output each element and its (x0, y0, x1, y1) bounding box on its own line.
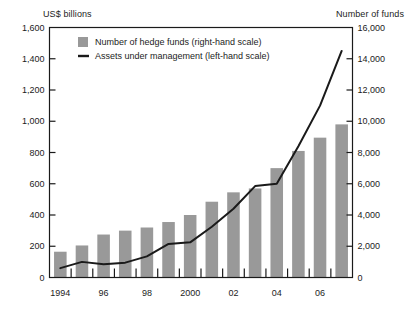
bar-2003 (249, 188, 262, 277)
left-tick-label-0: 0 (0, 273, 45, 282)
bars-group (54, 124, 348, 277)
left-tick-label-1400: 1,400 (0, 54, 45, 63)
left-tick-label-800: 800 (0, 148, 45, 157)
axes-frame (50, 28, 353, 278)
x-tick-label-1998: 98 (142, 289, 152, 298)
bar-2007 (335, 124, 348, 277)
x-tick-label-2002: 02 (228, 289, 238, 298)
chart-figure: US$ billions Number of funds 02004006008… (0, 0, 416, 309)
left-tick-label-1200: 1,200 (0, 86, 45, 95)
bar-1994 (54, 252, 67, 278)
bar-2000 (184, 215, 197, 278)
right-tick-label-10000: 10,000 (358, 117, 386, 126)
left-axis-caption: US$ billions (43, 9, 92, 19)
bar-2001 (206, 202, 219, 278)
left-tick-label-1000: 1,000 (0, 117, 45, 126)
bar-2006 (314, 138, 327, 278)
bar-2005 (292, 151, 305, 278)
right-tick-label-0: 0 (358, 273, 363, 282)
right-tick-label-14000: 14,000 (358, 54, 386, 63)
right-tick-label-4000: 4,000 (358, 211, 381, 220)
x-tick-label-1996: 96 (99, 289, 109, 298)
right-tick-label-16000: 16,000 (358, 23, 386, 32)
plot-frame (50, 28, 353, 278)
right-tick-label-2000: 2,000 (358, 242, 381, 251)
legend-label-1: Assets under management (left-hand scale… (95, 52, 270, 61)
right-tick-label-6000: 6,000 (358, 179, 381, 188)
left-tick-label-600: 600 (0, 179, 45, 188)
bar-1996 (97, 235, 110, 278)
x-tick-label-1994: 1994 (50, 289, 70, 298)
right-tick-label-12000: 12,000 (358, 86, 386, 95)
legend-markers (78, 37, 89, 56)
left-tick-label-200: 200 (0, 242, 45, 251)
legend-label-0: Number of hedge funds (right-hand scale) (95, 38, 262, 47)
right-axis-caption: Number of funds (336, 9, 404, 19)
right-tick-label-8000: 8,000 (358, 148, 381, 157)
bar-1999 (162, 222, 175, 277)
left-tick-label-400: 400 (0, 211, 45, 220)
bar-1997 (119, 231, 132, 278)
axis-ticks (50, 59, 353, 278)
x-tick-label-2000: 2000 (180, 289, 200, 298)
x-tick-label-2004: 04 (272, 289, 282, 298)
legend-swatch-bars (78, 37, 88, 47)
x-tick-label-2006: 06 (315, 289, 325, 298)
left-tick-label-1600: 1,600 (0, 23, 45, 32)
bar-1998 (141, 228, 154, 278)
